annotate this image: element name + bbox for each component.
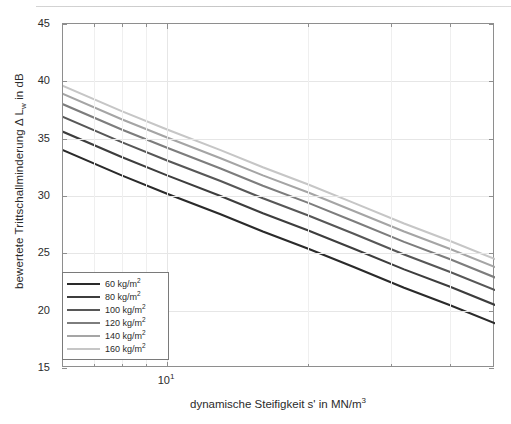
- legend-swatch: [67, 322, 100, 324]
- series-line: [63, 86, 495, 259]
- y-axis-tick-right: [489, 196, 494, 197]
- y-axis-tick: [62, 253, 67, 254]
- y-axis-title-sub: w: [20, 103, 29, 109]
- y-axis-tick: [62, 81, 67, 82]
- y-tick-label: 25: [38, 246, 50, 258]
- legend-label: 60 kg/m2: [105, 278, 141, 289]
- y-tick-label: 40: [38, 74, 50, 86]
- legend-item[interactable]: 160 kg/m2: [67, 342, 164, 355]
- y-axis-title: bewertete Trittschallminderung Δ Lw in d…: [13, 73, 28, 289]
- legend-swatch: [67, 335, 100, 337]
- page-edge-line: [36, 6, 511, 7]
- gridline-vertical-minor: [308, 24, 309, 366]
- x-axis-tick-top: [167, 24, 168, 29]
- x-axis-tick: [122, 364, 123, 367]
- y-axis-title-prefix: bewertete Trittschallminderung: [13, 126, 25, 289]
- y-axis-tick: [62, 368, 67, 369]
- legend-item[interactable]: 100 kg/m2: [67, 303, 164, 316]
- legend: 60 kg/m280 kg/m2100 kg/m2120 kg/m2140 kg…: [62, 272, 169, 360]
- series-line: [63, 117, 495, 290]
- y-axis-tick: [62, 139, 67, 140]
- y-axis-tick-right: [489, 81, 494, 82]
- gridline-horizontal: [63, 139, 493, 140]
- y-tick-label: 45: [38, 17, 50, 29]
- x-tick-label: 101: [158, 372, 175, 386]
- y-axis-title-suffix: in dB: [13, 73, 25, 103]
- legend-item[interactable]: 60 kg/m2: [67, 277, 164, 290]
- x-axis-tick: [450, 364, 451, 367]
- y-axis-tick-right: [489, 253, 494, 254]
- legend-item[interactable]: 80 kg/m2: [67, 290, 164, 303]
- y-axis-tick-right: [489, 139, 494, 140]
- y-axis-title-mid: L: [13, 109, 25, 119]
- gridline-horizontal: [63, 196, 493, 197]
- x-axis-tick-top: [391, 24, 392, 27]
- x-axis-tick: [391, 364, 392, 367]
- x-axis-title-sup: 3: [362, 396, 366, 405]
- legend-label: 80 kg/m2: [105, 291, 141, 302]
- gridline-vertical-minor: [450, 24, 451, 366]
- y-tick-label: 35: [38, 132, 50, 144]
- x-axis-tick: [308, 364, 309, 367]
- y-axis-tick-right: [489, 24, 494, 25]
- y-axis-tick: [62, 24, 67, 25]
- gridline-vertical-minor: [391, 24, 392, 366]
- x-axis-tick-top: [146, 24, 147, 27]
- y-axis-tick: [62, 196, 67, 197]
- y-tick-label: 30: [38, 189, 50, 201]
- x-axis-tick: [146, 364, 147, 367]
- series-line: [63, 104, 495, 277]
- x-axis-tick: [94, 364, 95, 367]
- legend-label: 120 kg/m2: [105, 317, 146, 328]
- x-axis-title: dynamische Steifigkeit s' in MN/m3: [62, 396, 494, 410]
- x-axis-title-prefix: dynamische Steifigkeit s' in MN/m: [190, 398, 362, 410]
- y-axis-title-holder: bewertete Trittschallminderung Δ Lw in d…: [12, 9, 30, 353]
- y-axis-tick-right: [489, 368, 494, 369]
- y-tick-label: 15: [38, 361, 50, 373]
- gridline-horizontal: [63, 253, 493, 254]
- legend-label: 100 kg/m2: [105, 304, 146, 315]
- legend-item[interactable]: 120 kg/m2: [67, 316, 164, 329]
- legend-label: 160 kg/m2: [105, 343, 146, 354]
- series-line: [63, 94, 495, 267]
- x-axis-tick-top: [450, 24, 451, 27]
- x-axis-tick: [167, 362, 168, 367]
- delta-symbol: Δ: [13, 119, 25, 126]
- legend-swatch: [67, 309, 100, 311]
- x-axis-tick-top: [308, 24, 309, 27]
- gridline-horizontal: [63, 81, 493, 82]
- x-axis-tick-top: [94, 24, 95, 27]
- y-axis-tick-right: [489, 311, 494, 312]
- legend-item[interactable]: 140 kg/m2: [67, 329, 164, 342]
- legend-swatch: [67, 283, 100, 285]
- figure-chart: 15202530354045 bewertete Trittschallmind…: [0, 0, 511, 424]
- x-axis-tick-top: [122, 24, 123, 27]
- legend-swatch: [67, 348, 100, 350]
- legend-swatch: [67, 296, 100, 298]
- y-tick-label: 20: [38, 304, 50, 316]
- legend-label: 140 kg/m2: [105, 330, 146, 341]
